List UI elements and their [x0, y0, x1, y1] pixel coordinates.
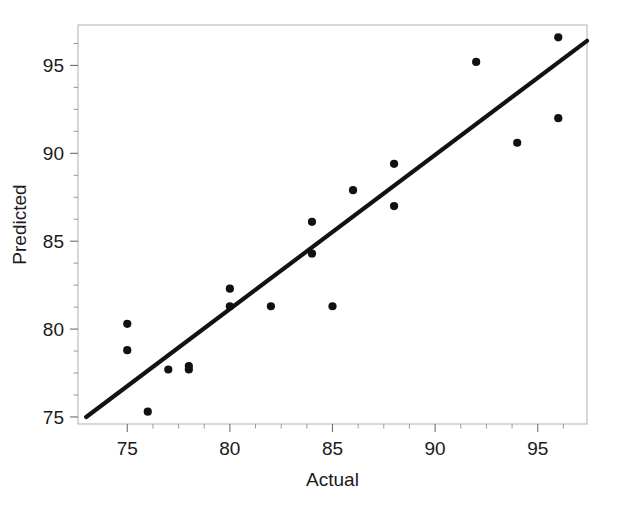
x-tick-label: 90	[425, 438, 446, 459]
y-axis-tick-labels: 7580859095	[43, 55, 64, 428]
y-tick-label: 85	[43, 231, 64, 252]
fit-line-segment	[86, 41, 587, 417]
data-point	[123, 346, 131, 354]
data-point	[226, 302, 234, 310]
data-point	[267, 302, 275, 310]
data-point	[123, 320, 131, 328]
data-point	[164, 365, 172, 373]
x-tick-label: 95	[527, 438, 548, 459]
y-tick-label: 75	[43, 407, 64, 428]
y-tick-label: 95	[43, 55, 64, 76]
data-point	[328, 302, 336, 310]
x-tick-label: 75	[117, 438, 138, 459]
data-point	[554, 33, 562, 41]
y-axis-ticks	[70, 43, 78, 417]
data-point	[554, 114, 562, 122]
data-point	[185, 365, 193, 373]
y-axis-title: Predicted	[9, 184, 30, 264]
data-point	[144, 408, 152, 416]
x-tick-label: 80	[219, 438, 240, 459]
data-point	[226, 285, 234, 293]
data-point	[472, 58, 480, 66]
x-axis-tick-labels: 7580859095	[117, 438, 549, 459]
data-point	[390, 202, 398, 210]
regression-fit-line	[86, 41, 587, 417]
data-point	[308, 249, 316, 257]
y-tick-label: 90	[43, 143, 64, 164]
y-tick-label: 80	[43, 319, 64, 340]
data-point	[308, 218, 316, 226]
x-axis-title: Actual	[306, 469, 359, 490]
data-point	[513, 139, 521, 147]
plot-canvas: 7580859095 7580859095 Actual Predicted	[0, 0, 617, 508]
x-tick-label: 85	[322, 438, 343, 459]
x-axis-ticks	[127, 424, 563, 432]
scatter-plot-figure: 7580859095 7580859095 Actual Predicted	[0, 0, 617, 508]
data-point	[349, 186, 357, 194]
data-point	[390, 160, 398, 168]
